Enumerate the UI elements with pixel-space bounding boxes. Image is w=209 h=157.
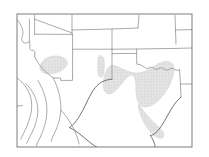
shaded-region-new-mexico	[98, 55, 105, 77]
map-canvas	[0, 0, 209, 157]
map-figure: Southwestern and South-Central United St…	[0, 0, 209, 157]
